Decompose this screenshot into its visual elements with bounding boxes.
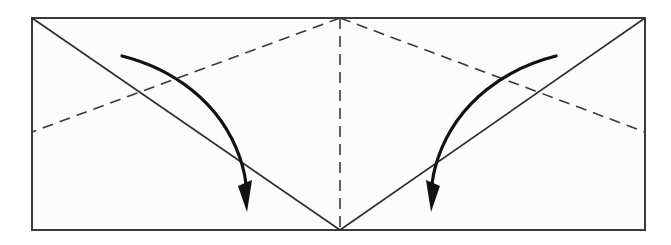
origami-diagram: [0, 0, 671, 245]
paper-sheet: [32, 18, 645, 230]
